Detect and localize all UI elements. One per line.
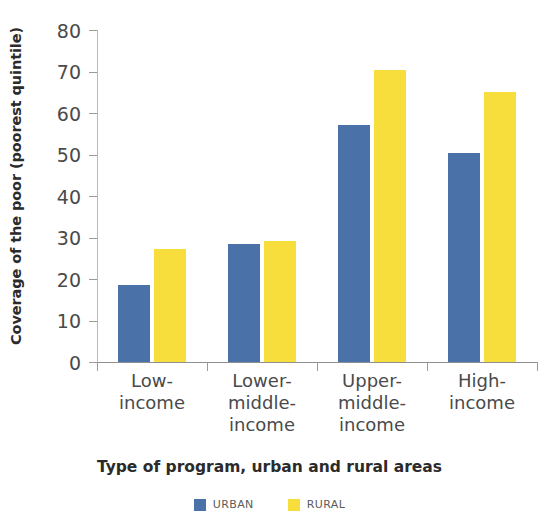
y-tick-label: 40 bbox=[57, 186, 81, 208]
bar-rural bbox=[264, 241, 296, 362]
y-axis-title-text: Coverage of the poor (poorest quintile) bbox=[8, 27, 24, 345]
y-tick-label: 0 bbox=[69, 352, 81, 374]
y-tick-mark: 70 bbox=[89, 72, 97, 73]
legend-swatch-icon bbox=[288, 499, 300, 511]
y-tick-label: 80 bbox=[57, 20, 81, 42]
bar-urban bbox=[448, 153, 480, 362]
bar-urban bbox=[118, 285, 150, 362]
category-label: Lower- middle- income bbox=[207, 370, 317, 436]
legend-swatch-icon bbox=[194, 499, 206, 511]
y-tick-mark: 20 bbox=[89, 279, 97, 280]
y-tick-label: 50 bbox=[57, 144, 81, 166]
legend-label: RURAL bbox=[307, 498, 346, 511]
legend-label: URBAN bbox=[213, 498, 254, 511]
y-tick-mark: 30 bbox=[89, 238, 97, 239]
y-tick-label: 20 bbox=[57, 269, 81, 291]
x-axis-title: Type of program, urban and rural areas bbox=[0, 458, 539, 476]
plot-area: 01020304050607080 bbox=[97, 30, 537, 362]
y-tick-mark: 80 bbox=[89, 30, 97, 31]
y-tick-mark: 40 bbox=[89, 196, 97, 197]
y-tick-mark: 60 bbox=[89, 113, 97, 114]
bar-urban bbox=[228, 244, 260, 362]
category-label: Low- income bbox=[97, 370, 207, 414]
bar-rural bbox=[374, 70, 406, 362]
y-tick-label: 10 bbox=[57, 310, 81, 332]
y-tick-mark: 10 bbox=[89, 321, 97, 322]
legend-item[interactable]: URBAN bbox=[194, 498, 254, 511]
bar-chart: Coverage of the poor (poorest quintile) … bbox=[0, 0, 539, 517]
bar-urban bbox=[338, 125, 370, 362]
y-tick-mark: 50 bbox=[89, 155, 97, 156]
category-label: High- income bbox=[427, 370, 537, 414]
y-axis-title: Coverage of the poor (poorest quintile) bbox=[0, 0, 32, 372]
chart-legend: URBANRURAL bbox=[0, 498, 539, 511]
x-axis-category-labels: Low- incomeLower- middle- incomeUpper- m… bbox=[97, 370, 537, 450]
y-tick-label: 70 bbox=[57, 61, 81, 83]
x-tick-mark bbox=[537, 362, 538, 371]
y-tick-mark: 0 bbox=[89, 362, 97, 363]
legend-item[interactable]: RURAL bbox=[288, 498, 346, 511]
y-axis-line bbox=[97, 30, 98, 362]
category-label: Upper- middle- income bbox=[317, 370, 427, 436]
y-tick-label: 30 bbox=[57, 227, 81, 249]
y-tick-label: 60 bbox=[57, 103, 81, 125]
bar-rural bbox=[154, 249, 186, 362]
bar-rural bbox=[484, 92, 516, 362]
